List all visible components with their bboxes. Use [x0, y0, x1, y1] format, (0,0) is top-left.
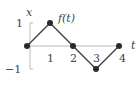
data-point — [93, 66, 99, 72]
xlabel: t — [131, 39, 136, 52]
xtick-label-3: 3 — [93, 52, 100, 65]
xtick-label-1: 1 — [47, 52, 54, 65]
xtick-label-2: 2 — [70, 52, 77, 65]
ytick-label-minus-1: −1 — [5, 63, 21, 76]
data-point — [70, 43, 76, 49]
series-annotation: f(t) — [57, 12, 75, 25]
chart: x t 1 −1 1 2 3 4 f(t) — [0, 0, 139, 86]
xtick-label-4: 4 — [119, 52, 126, 65]
ytick-label-1: 1 — [16, 17, 23, 30]
ylabel: x — [26, 6, 33, 19]
data-point — [116, 43, 122, 49]
series-segment — [50, 23, 73, 46]
data-point — [47, 20, 53, 26]
data-point — [24, 43, 30, 49]
